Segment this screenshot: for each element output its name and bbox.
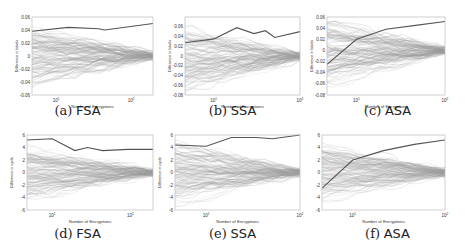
caption-letter: (e) — [209, 226, 227, 241]
y-axis-label: Difference in labels — [310, 40, 314, 72]
y-tick-label: 4 — [170, 145, 173, 150]
y-tick-label: 0.02 — [316, 37, 325, 42]
y-tick-label: -6 — [169, 208, 173, 213]
y-tick-label: 0 — [170, 170, 173, 175]
subfigure-caption: (a) FSA — [0, 103, 155, 118]
y-axis-label: Difference in labels — [15, 40, 19, 72]
caption-letter: (b) — [209, 103, 227, 118]
trial-lines — [32, 27, 153, 88]
subfigure-caption: (d) FSA — [0, 226, 155, 241]
y-tick-label: 0 — [322, 48, 325, 53]
y-tick-label: -6 — [21, 208, 25, 213]
y-tick-label: 2 — [317, 158, 320, 163]
x-axis-label: Number of Encryptions — [69, 219, 112, 224]
trial-lines — [322, 143, 445, 202]
y-tick-label: 2 — [170, 158, 173, 163]
x-tick-label: 102 — [442, 212, 449, 218]
subfigure-caption: (c) ASA — [310, 103, 465, 118]
y-tick-label: 0.04 — [174, 34, 183, 39]
x-axis-label: Number of Encryptions — [216, 219, 259, 224]
chart-panel-e: 6420-2-4-6101102Number of EncryptionsDif… — [155, 125, 310, 250]
y-tick-label: 0 — [180, 54, 183, 59]
subfigure-caption: (e) SSA — [155, 226, 310, 241]
caption-name: ASA — [385, 103, 411, 118]
y-tick-label: -2 — [316, 183, 320, 188]
caption-letter: (f) — [365, 226, 380, 241]
y-tick-label: 0.04 — [21, 28, 30, 33]
chart-panel-d: 6420-2-4-6101102Number of EncryptionsDif… — [0, 125, 155, 250]
x-tick-label: 101 — [203, 212, 210, 218]
caption-name: SSA — [231, 103, 257, 118]
y-tick-label: -0.02 — [173, 63, 184, 68]
x-tick-label: 102 — [127, 212, 134, 218]
caption-letter: (c) — [364, 103, 381, 118]
y-tick-label: -0.04 — [20, 80, 31, 85]
y-axis-label: Difference in cycle — [10, 157, 14, 188]
y-tick-label: 2 — [22, 158, 25, 163]
y-tick-label: -0.06 — [315, 81, 326, 86]
y-tick-label: 0.04 — [316, 26, 325, 31]
y-tick-label: 4 — [22, 145, 25, 150]
caption-letter: (a) — [54, 103, 72, 118]
caption-letter: (d) — [54, 226, 72, 241]
trial-lines — [327, 21, 445, 87]
subfigure-caption: (f) ASA — [310, 226, 465, 241]
y-tick-label: -4 — [169, 195, 173, 200]
y-tick-label: -0.04 — [173, 73, 184, 78]
y-tick-label: 0.02 — [21, 41, 30, 46]
caption-name: FSA — [76, 103, 101, 118]
y-tick-label: 6 — [317, 133, 320, 138]
y-axis-label: Difference in labels — [168, 40, 172, 72]
y-tick-label: 0 — [22, 170, 25, 175]
caption-name: FSA — [76, 226, 101, 241]
y-tick-label: -0.04 — [315, 70, 326, 75]
highlight-series-line — [32, 24, 153, 32]
chart-panel-c: 0.060.040.020-0.02-0.04-0.06-0.08101102N… — [310, 0, 465, 125]
y-tick-label: -0.06 — [173, 83, 184, 88]
subfigure-caption: (b) SSA — [155, 103, 310, 118]
chart-panel-b: 0.060.040.020-0.02-0.04-0.06-0.08101102N… — [155, 0, 310, 125]
y-tick-label: 6 — [170, 133, 173, 138]
chart-panel-f: 6420-2-4-6101102Number of EncryptionsDif… — [310, 125, 465, 250]
caption-name: SSA — [230, 226, 256, 241]
y-tick-label: 6 — [22, 133, 25, 138]
y-tick-label: -0.08 — [173, 93, 184, 98]
y-tick-label: 0.02 — [174, 44, 183, 49]
y-tick-label: 0.06 — [174, 24, 183, 29]
y-tick-label: -4 — [21, 195, 25, 200]
y-tick-label: -6 — [316, 208, 320, 213]
x-tick-label: 101 — [349, 212, 356, 218]
highlight-series-line — [27, 139, 153, 151]
y-tick-label: -4 — [316, 195, 320, 200]
y-tick-label: -0.02 — [20, 67, 31, 72]
x-tick-label: 101 — [49, 212, 56, 218]
y-tick-label: 0.06 — [316, 15, 325, 20]
y-axis-label: Difference in cycle — [158, 157, 162, 188]
y-tick-label: 0.06 — [21, 15, 30, 20]
y-tick-label: -2 — [169, 183, 173, 188]
trial-lines — [27, 144, 153, 199]
y-tick-label: 4 — [317, 145, 320, 150]
y-tick-label: -0.02 — [315, 59, 326, 64]
y-tick-label: -0.06 — [20, 93, 31, 98]
y-tick-label: -0.08 — [315, 93, 326, 98]
y-tick-label: -2 — [21, 183, 25, 188]
x-axis-label: Number of Encryptions — [362, 219, 405, 224]
caption-name: ASA — [384, 226, 410, 241]
y-tick-label: 0 — [27, 54, 30, 59]
x-tick-label: 102 — [297, 212, 304, 218]
y-tick-label: 0 — [317, 170, 320, 175]
chart-panel-a: 0.060.040.020-0.02-0.04-0.06101102Number… — [0, 0, 155, 125]
highlight-series-line — [175, 135, 300, 146]
trial-lines — [175, 140, 300, 207]
